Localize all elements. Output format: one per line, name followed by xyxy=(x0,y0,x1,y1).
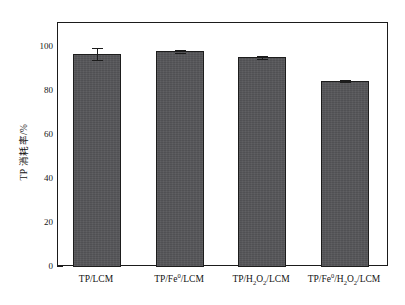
x-label-3: TP/Fe0/H2O2/LCM xyxy=(308,274,381,284)
x-label-2: TP/H2O2/LCM xyxy=(232,274,289,284)
bar-texture xyxy=(239,58,285,266)
error-bar-cap-lower-0 xyxy=(92,60,103,61)
y-tick-major-0 xyxy=(57,266,63,267)
y-tick-label-80: 80 xyxy=(31,85,53,95)
y-tick-label-100: 100 xyxy=(31,41,53,51)
x-label-1: TP/Fe0/LCM xyxy=(154,274,204,284)
error-bar-cap-upper-2 xyxy=(257,56,268,57)
bar-texture xyxy=(322,82,368,266)
error-bar-cap-upper-1 xyxy=(175,50,186,51)
bar-3 xyxy=(321,81,369,267)
x-label-0: TP/LCM xyxy=(79,274,113,284)
bar-1 xyxy=(156,51,204,267)
error-bar-stem-0 xyxy=(97,48,98,60)
y-tick-label-0: 0 xyxy=(31,261,53,271)
y-tick-label-40: 40 xyxy=(31,173,53,183)
error-bar-cap-upper-0 xyxy=(92,48,103,49)
y-axis-tick-labels: 0 20 40 60 80 100 xyxy=(27,0,53,305)
bar-2 xyxy=(238,57,286,267)
bar-0 xyxy=(73,54,121,267)
chart-figure: TP 消耗率/% 0 20 40 60 80 100 TP/LCM TP/Fe0… xyxy=(0,0,405,305)
error-bar-cap-lower-2 xyxy=(257,59,268,60)
bar-texture xyxy=(157,52,203,266)
plot-area xyxy=(57,22,388,266)
y-tick-label-60: 60 xyxy=(31,129,53,139)
error-bar-cap-lower-1 xyxy=(175,53,186,54)
y-tick-label-20: 20 xyxy=(31,217,53,227)
error-bar-cap-lower-3 xyxy=(340,82,351,83)
bar-texture xyxy=(74,55,120,266)
